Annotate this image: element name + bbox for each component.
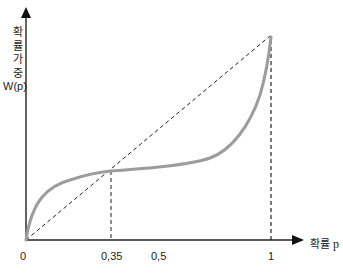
- x-axis-label: 확률p: [310, 235, 339, 252]
- diagonal-reference-line: [26, 36, 270, 240]
- y-label-char-3: 가: [4, 53, 32, 67]
- tick-label-035: 0,35: [101, 251, 122, 262]
- y-label-char-4: 중: [4, 67, 32, 81]
- y-axis-arrow-icon: [21, 7, 31, 18]
- chart-canvas: [0, 0, 343, 273]
- tick-label-05: 0,5: [151, 251, 166, 262]
- tick-label-1: 1: [268, 251, 274, 262]
- tick-label-0: 0: [20, 251, 26, 262]
- x-label-var: p: [333, 237, 339, 251]
- x-label-text: 확률: [310, 238, 330, 250]
- weighting-curve: [26, 37, 271, 240]
- y-axis-label: 확 률 가 중 W(p): [4, 26, 32, 94]
- x-axis-arrow-icon: [292, 235, 304, 245]
- y-label-char-1: 확: [4, 26, 32, 40]
- y-label-func: W(p): [0, 80, 32, 94]
- y-label-char-2: 률: [4, 40, 32, 54]
